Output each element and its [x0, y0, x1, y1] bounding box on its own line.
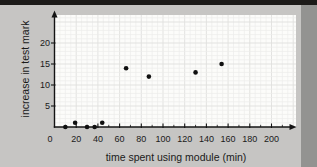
origin-label: 0: [47, 134, 52, 144]
y-tick-label: 15: [40, 59, 50, 69]
y-axis-title: increase in test mark: [19, 20, 31, 118]
x-tick-label: 80: [136, 134, 146, 144]
data-point: [124, 66, 129, 71]
x-tick-label: 180: [242, 134, 257, 144]
data-point: [63, 125, 68, 130]
x-tick-label: 20: [71, 134, 81, 144]
data-point: [100, 121, 105, 126]
x-tick-label: 120: [177, 134, 192, 144]
data-point: [73, 121, 78, 126]
data-point: [92, 125, 97, 130]
x-tick-label: 160: [221, 134, 236, 144]
x-tick-label: 60: [115, 134, 125, 144]
y-tick-label: 5: [45, 101, 50, 111]
x-axis-title: time spent using module (min): [106, 151, 247, 163]
x-tick-label: 40: [93, 134, 103, 144]
data-point: [147, 74, 152, 79]
y-tick-label: 10: [40, 80, 50, 90]
data-point: [219, 62, 224, 67]
scatter-plot: 2040608010012014016018020051015200time s…: [0, 0, 317, 167]
x-tick-label: 100: [155, 134, 170, 144]
y-tick-label: 20: [40, 38, 50, 48]
y-axis-arrow-icon: [52, 11, 58, 18]
data-point: [85, 125, 90, 130]
x-tick-label: 200: [264, 134, 279, 144]
screenshot-root: 2040608010012014016018020051015200time s…: [0, 0, 317, 167]
x-tick-label: 140: [199, 134, 214, 144]
data-point: [193, 70, 198, 75]
